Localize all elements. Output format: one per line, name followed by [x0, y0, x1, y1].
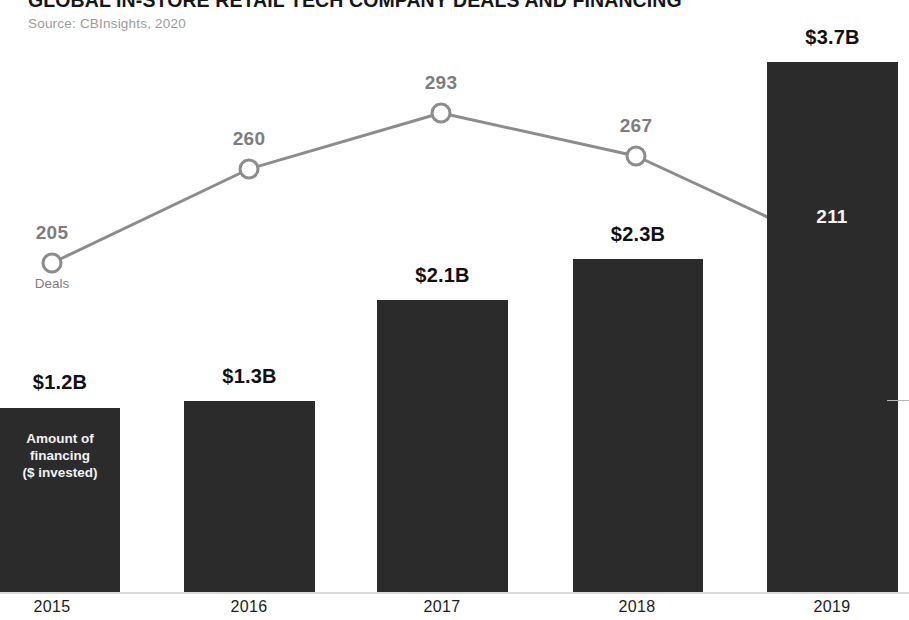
- infographic-chart: GLOBAL IN-STORE RETAIL TECH COMPANY DEAL…: [0, 0, 909, 620]
- plot-area: $1.2B2015$1.3B2016$2.1B2017$2.3B2018$3.7…: [0, 0, 909, 620]
- bar-value-label: $2.1B: [377, 264, 508, 287]
- bar-value-label: $1.2B: [0, 371, 120, 394]
- bar-series-caption: Amount of financing ($ invested): [0, 430, 120, 481]
- bar-2017: [377, 300, 508, 592]
- deals-point-label: 260: [199, 128, 299, 150]
- x-tick-2017: 2017: [392, 598, 492, 616]
- bar-2016: [184, 401, 315, 592]
- x-tick-2018: 2018: [587, 598, 687, 616]
- right-edge-tick: [887, 400, 909, 401]
- line-series-caption: Deals: [2, 276, 102, 291]
- bar-2018: [573, 259, 703, 592]
- x-axis-baseline: [0, 592, 909, 594]
- x-tick-2015: 2015: [2, 598, 102, 616]
- deals-point-label: 211: [782, 206, 882, 228]
- deals-point-marker: [627, 147, 645, 165]
- x-tick-2016: 2016: [199, 598, 299, 616]
- bar-value-label: $3.7B: [767, 26, 898, 49]
- deals-point-marker: [240, 160, 258, 178]
- deals-point-label: 293: [391, 72, 491, 94]
- bar-2019: [767, 62, 898, 592]
- deals-point-label: 267: [586, 115, 686, 137]
- deals-line-path: [52, 113, 832, 263]
- deals-point-label: 205: [2, 222, 102, 244]
- bar-value-label: $2.3B: [573, 223, 703, 246]
- bar-value-label: $1.3B: [184, 365, 315, 388]
- x-tick-2019: 2019: [782, 598, 882, 616]
- deals-point-marker: [43, 254, 61, 272]
- deals-point-marker: [432, 104, 450, 122]
